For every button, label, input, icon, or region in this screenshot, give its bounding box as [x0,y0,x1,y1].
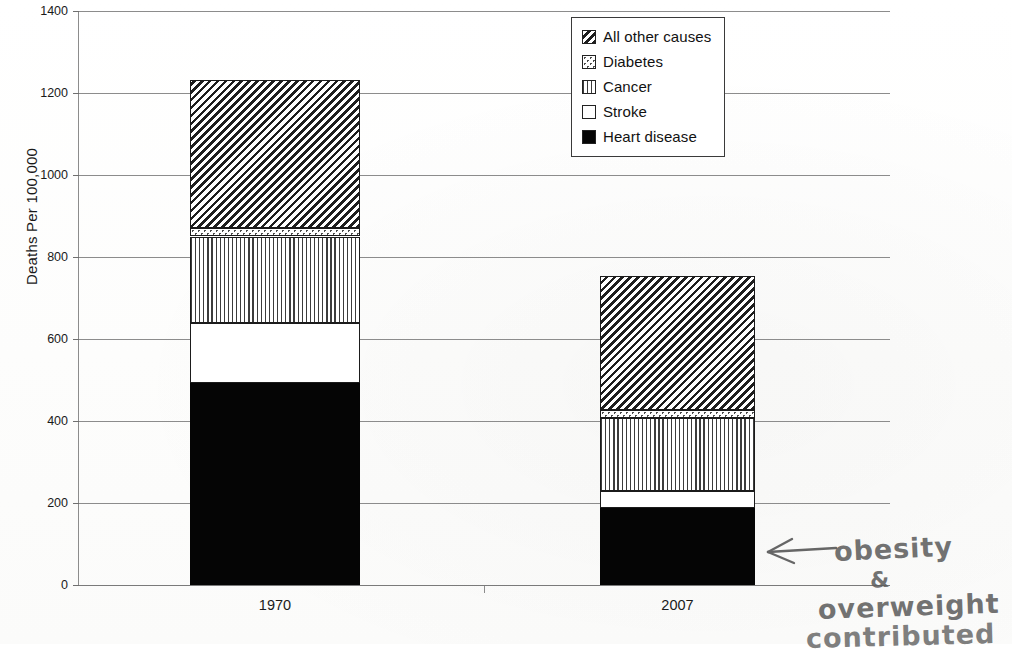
y-tick-mark [73,585,79,586]
x-category-label-2007: 2007 [618,597,738,613]
bar-1970[interactable] [190,11,360,585]
plot-area [78,11,890,585]
y-tick-mark [73,503,79,504]
legend-label: Stroke [603,103,647,120]
bar-segment-cancer[interactable] [190,237,360,323]
legend-item-all-other-causes[interactable]: All other causes [582,24,711,49]
bar-segment-stroke[interactable] [190,323,360,384]
y-tick-label: 600 [24,332,68,346]
y-tick-label: 0 [24,578,68,592]
chart-legend: All other causesDiabetesCancerStrokeHear… [571,17,725,157]
legend-swatch-icon [582,30,596,44]
x-category-label-1970: 1970 [215,597,335,613]
y-tick-mark [73,175,79,176]
bar-segment-all-other-causes[interactable] [600,276,755,410]
legend-swatch-icon [582,80,596,94]
y-tick-label: 1000 [24,168,68,182]
y-tick-label: 1400 [24,4,68,18]
bar-segment-stroke[interactable] [600,491,755,508]
legend-item-diabetes[interactable]: Diabetes [582,49,711,74]
legend-item-stroke[interactable]: Stroke [582,99,711,124]
y-tick-label: 200 [24,496,68,510]
legend-swatch-icon [582,105,596,119]
annotation-line-contributed: contributed [806,618,996,653]
y-tick-label: 800 [24,250,68,264]
x-tick-mark [484,586,485,593]
legend-swatch-icon [582,130,596,144]
y-tick-mark [73,421,79,422]
legend-item-cancer[interactable]: Cancer [582,74,711,99]
y-tick-label: 1200 [24,86,68,100]
legend-swatch-icon [582,55,596,69]
y-tick-mark [73,257,79,258]
bar-segment-all-other-causes[interactable] [190,80,360,228]
bar-segment-heart-disease[interactable] [190,383,360,585]
y-tick-mark [73,11,79,12]
legend-item-heart-disease[interactable]: Heart disease [582,124,711,149]
bar-segment-diabetes[interactable] [190,228,360,236]
bar-segment-heart-disease[interactable] [600,508,755,585]
legend-label: Cancer [603,78,652,95]
y-axis-tick-labels: 0200400600800100012001400 [20,0,68,644]
y-tick-mark [73,339,79,340]
legend-label: Heart disease [603,128,697,145]
bar-segment-cancer[interactable] [600,418,755,491]
legend-label: All other causes [603,28,711,45]
bar-segment-diabetes[interactable] [600,410,755,418]
annotation-line-overweight: overweight [817,588,1000,625]
y-tick-mark [73,93,79,94]
legend-label: Diabetes [603,53,663,70]
y-tick-label: 400 [24,414,68,428]
